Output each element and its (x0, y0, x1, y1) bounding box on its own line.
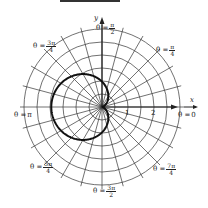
grid-radial (81, 107, 102, 186)
grid-radial (102, 86, 181, 107)
tick-label-1: 1 (125, 109, 129, 117)
theta-zero-arrow-icon (193, 105, 198, 109)
angle-label-0: θ = 0 (178, 112, 196, 119)
grid-radial (23, 86, 102, 107)
grid-radial (31, 66, 102, 107)
grid-radial (81, 28, 102, 107)
grid-radial (61, 107, 102, 178)
angle-label-pi: θ = π (14, 112, 32, 119)
grid-radial (61, 36, 102, 107)
grid-radial (102, 28, 123, 107)
x-axis-arrow-icon (171, 105, 178, 110)
angle-label-pi4: θ = π4 (156, 44, 175, 57)
tick-label-2: 2 (151, 109, 155, 117)
grid-radial (102, 107, 173, 148)
angle-label-7pi4: θ = 7π4 (153, 163, 176, 176)
grid-radial (102, 49, 160, 107)
angle-label-3pi2: θ = 3π2 (93, 185, 116, 198)
x-axis-label: x (190, 96, 194, 104)
grid-radial (102, 107, 181, 128)
grid-radial (102, 107, 123, 186)
angle-label-5pi4: θ = 5π4 (30, 161, 53, 174)
angle-label-3pi4: θ = 3π4 (33, 40, 56, 53)
angle-label-pi2: θ = π2 (96, 22, 115, 35)
grid-radial (23, 107, 102, 128)
y-axis-label: y (94, 14, 98, 22)
grid-radial (102, 66, 173, 107)
grid-radial (31, 107, 102, 148)
